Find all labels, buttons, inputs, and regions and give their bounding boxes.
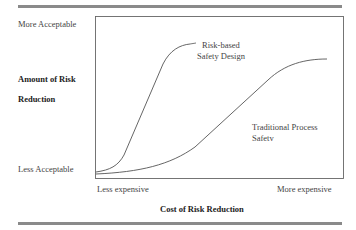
plot-frame (96, 17, 344, 179)
diagram-canvas (0, 0, 356, 230)
traditional-curve (96, 59, 327, 174)
risk-based-leader (190, 43, 196, 44)
risk-based-curve (96, 44, 190, 172)
